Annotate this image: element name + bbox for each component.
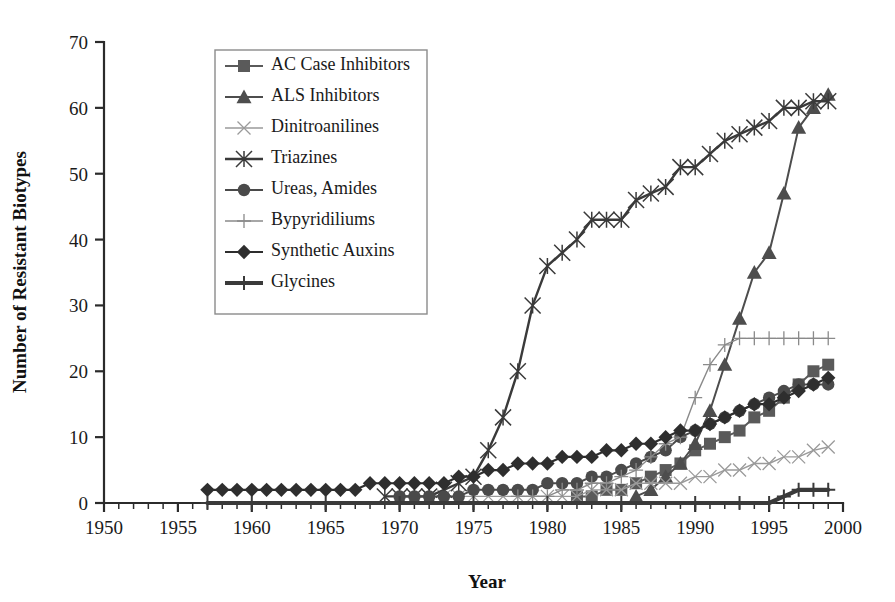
data-point-marker [822, 441, 835, 454]
data-point-marker [718, 410, 732, 424]
legend-item-label: AC Case Inhibitors [271, 54, 410, 74]
x-tick-label: 1960 [233, 517, 271, 538]
x-tick-label: 1970 [381, 517, 419, 538]
data-point-marker [570, 450, 584, 464]
data-point-marker [703, 417, 717, 431]
y-tick-label: 20 [69, 361, 88, 382]
data-point-marker [702, 403, 717, 417]
data-point-marker [467, 484, 479, 496]
data-point-marker [717, 357, 732, 371]
data-point-marker [807, 365, 819, 377]
data-point-marker [540, 456, 554, 470]
data-point-marker [482, 484, 494, 496]
data-point-marker [319, 483, 333, 497]
data-point-marker [274, 483, 288, 497]
data-point-marker [806, 377, 820, 391]
data-point-marker [734, 425, 746, 437]
data-point-marker [629, 437, 643, 451]
data-point-marker [644, 437, 658, 451]
data-point-marker [467, 496, 481, 510]
data-point-marker [614, 443, 628, 457]
data-point-marker [585, 450, 599, 464]
data-point-marker [423, 490, 435, 502]
data-point-marker [238, 184, 250, 196]
data-point-marker [806, 483, 820, 497]
data-point-marker [792, 331, 806, 345]
data-point-marker [378, 476, 392, 490]
data-point-marker [658, 179, 674, 195]
legend-item-label: Dinitroanilines [271, 116, 379, 136]
data-point-marker [762, 245, 777, 259]
data-point-marker [453, 490, 465, 502]
data-point-marker [510, 363, 526, 379]
x-tick-label: 2000 [824, 517, 862, 538]
data-point-marker [569, 232, 585, 248]
x-tick-label: 1950 [85, 517, 123, 538]
series-line [385, 101, 828, 496]
data-point-marker [643, 185, 659, 201]
data-point-marker [363, 476, 377, 490]
x-tick-label: 1980 [528, 517, 566, 538]
data-point-marker [688, 496, 702, 510]
data-point-marker [688, 436, 703, 450]
y-tick-label: 60 [69, 98, 88, 119]
data-point-marker [732, 311, 747, 325]
data-point-marker [495, 409, 511, 425]
data-point-marker [732, 404, 746, 418]
data-point-marker [438, 490, 450, 502]
data-point-marker [259, 483, 273, 497]
series-triazines [377, 93, 836, 504]
data-point-marker [629, 489, 644, 503]
data-point-marker [392, 476, 406, 490]
data-point-marker [408, 490, 420, 502]
legend-item-label: Glycines [271, 271, 335, 291]
x-tick-label: 1995 [750, 517, 788, 538]
data-point-marker [777, 489, 791, 503]
data-point-marker [481, 463, 495, 477]
legend-item-label: Triazines [271, 147, 337, 167]
data-point-marker [822, 359, 834, 371]
x-tick-label: 1975 [455, 517, 493, 538]
legend-item-label: ALS Inhibitors [271, 85, 380, 105]
data-point-marker [761, 113, 777, 129]
x-axis-title: Year [468, 571, 507, 592]
data-point-marker [539, 258, 555, 274]
data-point-marker [747, 331, 761, 345]
y-axis-ticks: 010203040506070 [69, 32, 104, 514]
data-point-marker [525, 456, 539, 470]
data-point-marker [717, 133, 733, 149]
data-point-marker [540, 496, 554, 510]
data-point-marker [732, 126, 748, 142]
data-point-marker [746, 120, 762, 136]
series-bypyridiliums [511, 331, 835, 503]
y-tick-label: 0 [79, 493, 89, 514]
data-point-marker [525, 297, 541, 313]
series-line [518, 338, 828, 496]
chart-legend: AC Case InhibitorsALS InhibitorsDinitroa… [215, 50, 427, 314]
data-point-marker [238, 60, 250, 72]
data-point-marker [541, 477, 553, 489]
data-point-marker [688, 423, 702, 437]
data-point-marker [776, 186, 791, 200]
y-axis-title: Number of Resistant Biotypes [9, 151, 30, 393]
data-point-marker [289, 483, 303, 497]
data-point-marker [614, 496, 628, 510]
data-point-marker [748, 411, 760, 423]
data-point-marker [762, 496, 776, 510]
data-point-marker [688, 391, 702, 405]
data-point-marker [777, 331, 791, 345]
data-point-marker [200, 483, 214, 497]
y-tick-label: 30 [69, 295, 88, 316]
legend-item-label: Ureas, Amides [271, 178, 377, 198]
data-point-marker [496, 463, 510, 477]
x-tick-label: 1985 [602, 517, 640, 538]
x-tick-label: 1990 [676, 517, 714, 538]
data-point-marker [806, 331, 820, 345]
data-point-marker [645, 471, 657, 483]
chart-container: 010203040506070 195019551960196519701975… [0, 0, 895, 602]
y-tick-label: 40 [69, 230, 88, 251]
x-tick-label: 1955 [159, 517, 197, 538]
data-point-marker [422, 476, 436, 490]
data-point-marker [407, 476, 421, 490]
x-tick-label: 1965 [307, 517, 345, 538]
